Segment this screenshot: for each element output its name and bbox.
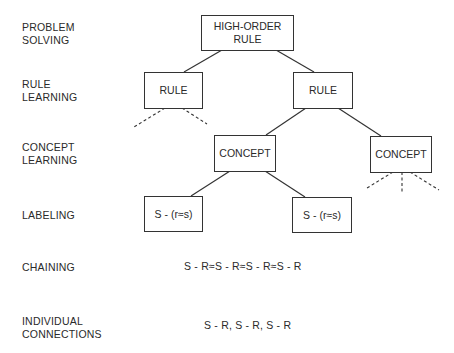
- level-label-chaining: CHAINING: [22, 261, 75, 274]
- node-label-right: S - (r≈s): [292, 197, 352, 233]
- level-label-labeling: LABELING: [22, 209, 75, 222]
- level-label-individual-connections: INDIVIDUAL CONNECTIONS: [22, 315, 102, 340]
- individual-connections-sequence: S - R, S - R, S - R: [204, 319, 291, 331]
- node-high-order-rule: HIGH-ORDER RULE: [201, 15, 294, 51]
- node-label-left: S - (r≈s): [144, 196, 203, 232]
- connector-lines: [0, 0, 454, 353]
- node-concept-right: CONCEPT: [370, 136, 432, 173]
- node-rule-left: RULE: [144, 72, 203, 109]
- level-label-concept-learning: CONCEPT LEARNING: [22, 141, 77, 166]
- chaining-sequence: S - R≈S - R≈S - R≈S - R: [184, 260, 302, 272]
- level-label-problem-solving: PROBLEM SOLVING: [22, 21, 75, 46]
- level-label-rule-learning: RULE LEARNING: [22, 78, 77, 103]
- node-rule-right: RULE: [293, 72, 353, 109]
- node-concept-left: CONCEPT: [214, 135, 276, 172]
